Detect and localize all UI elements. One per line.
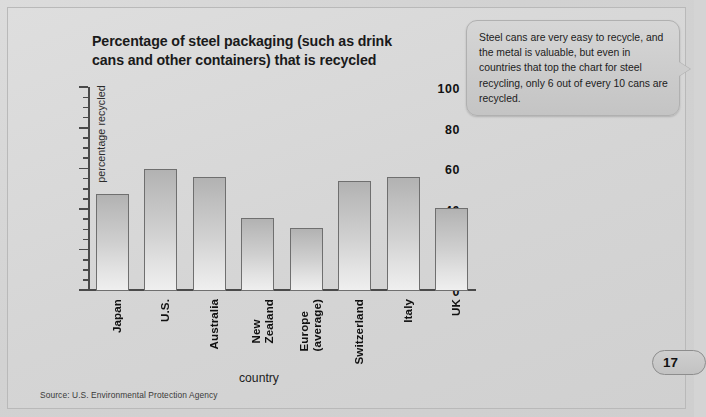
bar [387,177,420,291]
callout-text: Steel cans are very easy to recycle, and… [479,30,671,106]
y-axis-minor-tick [83,107,88,109]
x-axis-category-label: Italy [402,299,415,323]
y-axis-tick-label: 100 [438,82,460,96]
y-axis-minor-tick [83,279,88,281]
bar [338,181,371,291]
x-axis-category-label: Japan [111,299,124,333]
bar [193,177,226,291]
y-axis-minor-tick [83,188,88,190]
bar [435,208,468,291]
chart-title-line-2: cans and other containers) that is recyc… [92,51,452,70]
x-axis-title: country [239,371,279,385]
y-axis-major-tick [79,289,88,291]
y-axis-minor-tick [83,117,88,119]
page-number-label: 17 [663,355,678,370]
y-axis-minor-tick [83,259,88,261]
y-axis-major-tick [79,168,88,170]
y-axis-tick-label: 60 [445,163,460,177]
y-axis-minor-tick [83,178,88,180]
bar [241,218,274,291]
y-axis-minor-tick [83,137,88,139]
chart-title: Percentage of steel packaging (such as d… [92,32,452,70]
y-axis-major-tick [79,127,88,129]
y-axis-minor-tick [83,157,88,159]
y-axis-minor-tick [83,147,88,149]
bar [290,228,323,291]
callout-box: Steel cans are very easy to recycle, and… [466,20,680,116]
callout-tail-icon [679,62,690,76]
bar [96,194,129,291]
page-number-badge: 17 [652,350,706,375]
y-axis-minor-tick [83,97,88,99]
bar [144,169,177,291]
y-axis-minor-tick [83,198,88,200]
y-axis-tick-label: 80 [445,123,460,137]
x-axis-category-label: UK [450,299,463,316]
y-axis-title: percentage recycled [95,69,107,199]
x-axis-category-label: U.S. [159,299,172,322]
y-axis-major-tick [79,208,88,210]
x-axis-category-label: New Zealand [250,299,275,344]
y-axis-minor-tick [83,269,88,271]
x-axis-category-label: Switzerland [353,299,366,365]
y-axis-major-tick [79,249,88,251]
y-axis-minor-tick [83,218,88,220]
y-axis-minor-tick [83,239,88,241]
plot-area: percentage recycled 020406080100 [88,88,476,291]
chart-title-line-1: Percentage of steel packaging (such as d… [92,32,452,51]
x-axis-category-label: Australia [208,299,221,350]
y-axis-major-tick [79,86,88,88]
y-axis-minor-tick [83,229,88,231]
source-note: Source: U.S. Environmental Protection Ag… [40,390,218,400]
x-axis-category-label: Europe (average) [298,299,323,351]
